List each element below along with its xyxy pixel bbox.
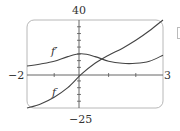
partial-box	[177, 27, 180, 39]
x-min-label: −2	[8, 70, 24, 81]
f-label: f	[52, 87, 56, 98]
fprime-label: f′	[51, 46, 58, 57]
plot-frame	[27, 20, 163, 108]
f-curve	[27, 20, 163, 108]
y-min-label: −25	[69, 114, 92, 125]
y-max-label: 40	[72, 5, 86, 16]
x-max-label: 3	[164, 70, 171, 81]
plot-area	[0, 0, 180, 131]
ticks	[54, 27, 136, 101]
fprime-curve	[27, 54, 163, 66]
